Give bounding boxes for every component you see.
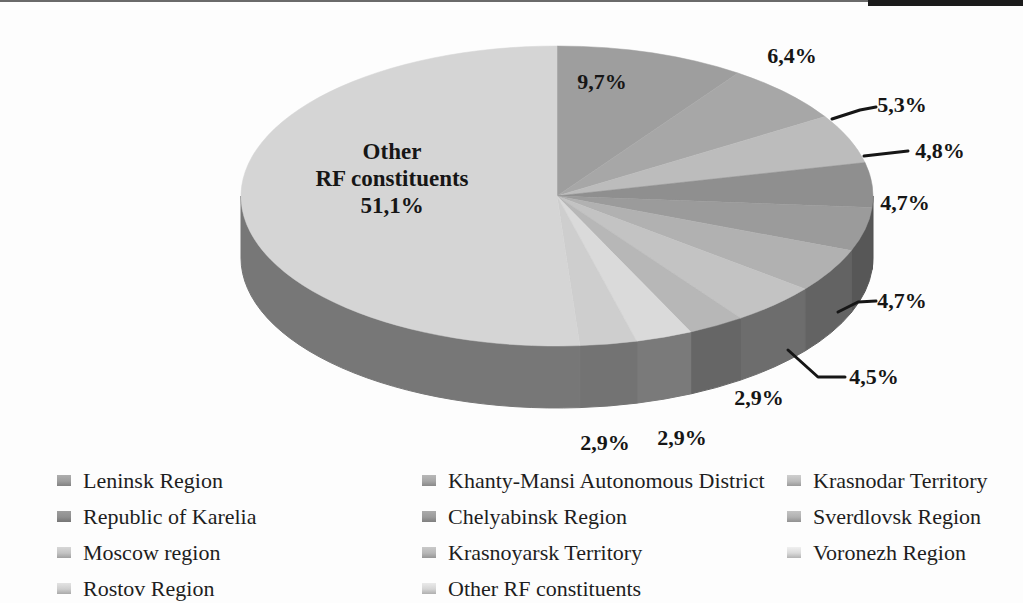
legend-item: Voronezh Region <box>787 540 988 576</box>
legend-swatch-icon <box>787 547 801 558</box>
legend-item-label: Krasnoyarsk Territory <box>448 540 642 566</box>
legend-column-1: Leninsk RegionRepublic of KareliaMoscow … <box>57 468 257 603</box>
legend-swatch-icon <box>57 547 71 558</box>
legend-item-label: Chelyabinsk Region <box>448 504 627 530</box>
legend-swatch-icon <box>787 475 801 486</box>
legend-item: Krasnodar Territory <box>787 468 988 504</box>
legend-item-label: Sverdlovsk Region <box>813 504 981 530</box>
legend-item: Krasnoyarsk Territory <box>422 540 765 576</box>
legend-item-label: Moscow region <box>83 540 220 566</box>
slice-value-label-7: 2,9% <box>734 385 784 411</box>
legend-swatch-icon <box>787 511 801 522</box>
other-slice-inner-label: Other RF constituents 51,1% <box>315 138 468 219</box>
legend-swatch-icon <box>422 511 436 522</box>
legend-item: Republic of Karelia <box>57 504 257 540</box>
legend-swatch-icon <box>57 511 71 522</box>
legend-item-label: Leninsk Region <box>83 468 223 494</box>
slice-value-label-6: 4,5% <box>849 364 899 390</box>
pie-chart-region: 9,7%6,4%5,3%4,8%4,7%4,7%4,5%2,9%2,9%2,9%… <box>0 6 1023 464</box>
legend-item-label: Khanty-Mansi Autonomous District <box>448 468 765 494</box>
legend-swatch-icon <box>422 583 436 594</box>
legend-item-label: Republic of Karelia <box>83 504 257 530</box>
legend-item: Moscow region <box>57 540 257 576</box>
legend-column-3: Krasnodar TerritorySverdlovsk RegionVoro… <box>787 468 988 576</box>
slice-value-label-5: 4,7% <box>877 288 927 314</box>
legend-swatch-icon <box>57 475 71 486</box>
slice-value-label-1: 6,4% <box>767 43 817 69</box>
slice-value-label-2: 5,3% <box>877 92 927 118</box>
slice-value-label-8: 2,9% <box>657 425 707 451</box>
slice-value-label-9: 2,9% <box>580 430 630 456</box>
legend-item: Khanty-Mansi Autonomous District <box>422 468 765 504</box>
legend-item-label: Rostov Region <box>83 576 214 602</box>
legend-item-label: Voronezh Region <box>813 540 966 566</box>
legend-swatch-icon <box>57 583 71 594</box>
legend-item: Leninsk Region <box>57 468 257 504</box>
pie-chart <box>0 6 1023 464</box>
chart-legend: Leninsk RegionRepublic of KareliaMoscow … <box>0 468 1023 603</box>
legend-item: Sverdlovsk Region <box>787 504 988 540</box>
legend-swatch-icon <box>422 475 436 486</box>
pie-slice-wall-8 <box>637 332 691 403</box>
leader-line-2 <box>832 107 876 119</box>
legend-item: Other RF constituents <box>422 576 765 603</box>
legend-column-2: Khanty-Mansi Autonomous DistrictChelyabi… <box>422 468 765 603</box>
pie-slice-wall-9 <box>580 341 637 407</box>
slice-value-label-0: 9,7% <box>577 69 627 95</box>
legend-item-label: Other RF constituents <box>448 576 641 602</box>
slice-value-label-3: 4,8% <box>915 138 965 164</box>
legend-swatch-icon <box>422 547 436 558</box>
leader-line-3 <box>864 151 908 156</box>
legend-item-label: Krasnodar Territory <box>813 468 988 494</box>
legend-item: Chelyabinsk Region <box>422 504 765 540</box>
slice-value-label-4: 4,7% <box>880 190 930 216</box>
legend-item: Rostov Region <box>57 576 257 603</box>
